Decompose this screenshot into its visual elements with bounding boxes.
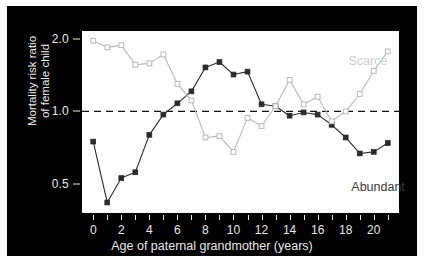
data-point bbox=[189, 98, 194, 103]
data-point bbox=[217, 134, 222, 139]
x-axis-tick-label: 6 bbox=[162, 223, 192, 237]
data-point bbox=[217, 60, 222, 65]
data-point bbox=[385, 49, 390, 54]
data-point bbox=[147, 61, 152, 66]
x-axis-tick-mark bbox=[149, 215, 150, 220]
data-point bbox=[105, 200, 110, 205]
x-axis-tick-mark bbox=[121, 215, 122, 220]
y-axis-tick-mark bbox=[73, 38, 80, 39]
data-point bbox=[133, 170, 138, 175]
x-axis-tick-mark bbox=[163, 215, 164, 220]
y-axis-tick-mark bbox=[73, 111, 80, 112]
data-point bbox=[329, 119, 334, 124]
figure-container: 2.01.00.5 Mortality risk ratio of female… bbox=[0, 0, 424, 263]
data-point bbox=[119, 176, 124, 181]
x-axis-tick-mark bbox=[248, 215, 249, 220]
data-point bbox=[91, 139, 96, 144]
series-label-abundant: Abundant bbox=[351, 180, 405, 194]
x-axis-tick-mark bbox=[360, 215, 361, 220]
x-axis-tick-mark bbox=[304, 215, 305, 220]
x-axis-tick-label: 2 bbox=[106, 223, 136, 237]
data-point bbox=[301, 110, 306, 115]
y-axis-tick-mark bbox=[73, 184, 80, 185]
data-point bbox=[343, 135, 348, 140]
data-point bbox=[119, 43, 124, 48]
data-point bbox=[343, 109, 348, 114]
x-axis-tick-label: 10 bbox=[218, 223, 248, 237]
x-axis-tick-label: 16 bbox=[303, 223, 333, 237]
y-axis-title-line-2: of female child bbox=[39, 11, 52, 151]
x-axis-tick-mark bbox=[177, 215, 178, 220]
data-point bbox=[357, 92, 362, 97]
x-axis-tick-mark bbox=[233, 215, 234, 220]
series-label-scarce: Scarce bbox=[349, 54, 388, 68]
data-point bbox=[245, 115, 250, 120]
x-axis-tick-label: 4 bbox=[134, 223, 164, 237]
data-point bbox=[315, 94, 320, 99]
data-point bbox=[203, 135, 208, 140]
data-point bbox=[231, 149, 236, 154]
x-axis-tick-mark bbox=[318, 215, 319, 220]
data-point bbox=[175, 81, 180, 86]
data-point bbox=[105, 45, 110, 50]
x-axis-tick-mark bbox=[374, 215, 375, 220]
data-point bbox=[357, 151, 362, 156]
x-axis-tick-mark bbox=[290, 215, 291, 220]
x-axis-tick-label: 14 bbox=[275, 223, 305, 237]
data-point bbox=[301, 102, 306, 107]
data-point bbox=[287, 113, 292, 118]
data-point bbox=[259, 102, 264, 107]
data-point bbox=[161, 52, 166, 57]
x-axis-tick-mark bbox=[191, 215, 192, 220]
x-axis-tick-mark bbox=[276, 215, 277, 220]
data-point bbox=[259, 124, 264, 129]
data-point bbox=[231, 72, 236, 77]
data-point bbox=[175, 101, 180, 106]
x-axis-tick-label: 18 bbox=[331, 223, 361, 237]
chart-panel: 2.01.00.5 Mortality risk ratio of female… bbox=[7, 6, 417, 256]
series-line-abundant bbox=[93, 62, 388, 202]
data-point bbox=[203, 65, 208, 70]
data-point bbox=[91, 38, 96, 43]
x-axis-tick-label: 20 bbox=[359, 223, 389, 237]
x-axis-tick-label: 8 bbox=[190, 223, 220, 237]
x-axis-tick-mark bbox=[262, 215, 263, 220]
data-point bbox=[161, 112, 166, 117]
y-axis-tick-label: 0.5 bbox=[29, 177, 69, 191]
x-axis-tick-mark bbox=[205, 215, 206, 220]
y-axis-title: Mortality risk ratio of female child bbox=[26, 11, 52, 151]
x-axis-tick-mark bbox=[107, 215, 108, 220]
data-point bbox=[273, 104, 278, 109]
x-axis-tick-label: 0 bbox=[78, 223, 108, 237]
data-point bbox=[147, 132, 152, 137]
x-axis-tick-mark bbox=[388, 215, 389, 220]
data-point bbox=[287, 77, 292, 82]
x-axis-tick-mark bbox=[346, 215, 347, 220]
data-point bbox=[371, 69, 376, 74]
data-point bbox=[315, 112, 320, 117]
x-axis-tick-mark bbox=[332, 215, 333, 220]
x-axis-tick-mark bbox=[93, 215, 94, 220]
data-point bbox=[133, 62, 138, 67]
x-axis-title: Age of paternal grandmother (years) bbox=[7, 239, 417, 253]
y-axis-title-line-1: Mortality risk ratio bbox=[26, 11, 39, 151]
x-axis-tick-mark bbox=[135, 215, 136, 220]
data-point bbox=[189, 89, 194, 94]
data-point bbox=[385, 141, 390, 146]
data-point bbox=[371, 149, 376, 154]
x-axis-tick-mark bbox=[219, 215, 220, 220]
data-point bbox=[245, 69, 250, 74]
x-axis-tick-label: 12 bbox=[247, 223, 277, 237]
